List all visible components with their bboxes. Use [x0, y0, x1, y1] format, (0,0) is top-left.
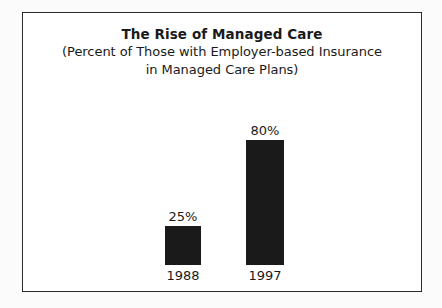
bar-group-1988: 25% 1988 [165, 226, 201, 265]
bar-group-1997: 80% 1997 [246, 140, 284, 265]
bar-1988 [165, 226, 201, 265]
chart-frame: The Rise of Managed Care (Percent of Tho… [22, 12, 422, 292]
bar-value-label-1988: 25% [169, 209, 198, 224]
bar-category-label-1997: 1997 [248, 268, 281, 283]
bar-1997 [246, 140, 284, 265]
bar-value-label-1997: 80% [251, 123, 280, 138]
bar-category-label-1988: 1988 [166, 268, 199, 283]
plot-area: 25% 1988 80% 1997 [23, 13, 423, 293]
